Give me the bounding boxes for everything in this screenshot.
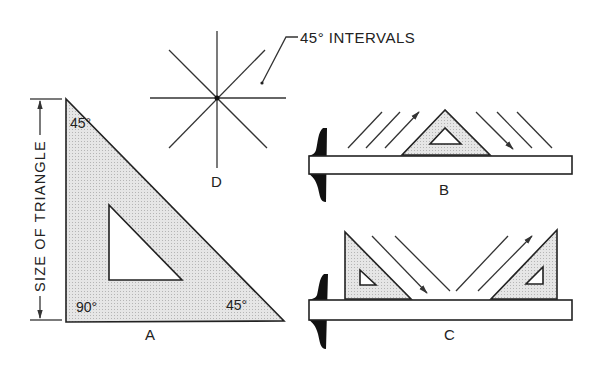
angle-label-top: 45° xyxy=(70,115,91,131)
panel-c: C xyxy=(309,230,572,349)
label-b: B xyxy=(439,181,449,198)
triangle-diagram: 45° INTERVALS D 45° 90° 45° A SIZE OF TR… xyxy=(0,0,599,373)
tsquare-blade-c xyxy=(309,300,572,320)
tsquare-blade-b xyxy=(309,156,572,174)
dimension-size-of-triangle: SIZE OF TRIANGLE xyxy=(30,99,62,320)
label-a: A xyxy=(145,326,155,343)
label-d: D xyxy=(211,173,222,190)
panel-a-triangle: 45° 90° 45° A xyxy=(66,99,284,343)
angle-label-bottom-right: 45° xyxy=(226,297,247,313)
callout-leader xyxy=(260,37,298,85)
dimension-label: SIZE OF TRIANGLE xyxy=(32,140,48,292)
callout-45-intervals: 45° INTERVALS xyxy=(300,29,415,46)
label-c: C xyxy=(444,326,455,343)
angle-label-bottom-left: 90° xyxy=(76,299,97,315)
panel-b: B xyxy=(309,110,572,202)
